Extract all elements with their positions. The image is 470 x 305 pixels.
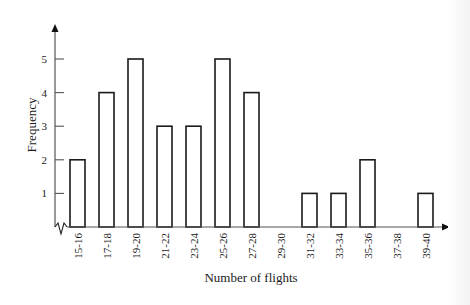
x-tick-label: 27-28 [246, 233, 258, 259]
x-tick-label: 33-34 [333, 233, 345, 259]
y-tick-label: 1 [42, 187, 48, 199]
x-tick-label: 25-26 [217, 233, 229, 259]
y-tick-label: 5 [42, 53, 48, 65]
y-axis-label: Frequency [24, 97, 39, 152]
bar-25-26 [215, 59, 230, 227]
bar-39-40 [418, 193, 433, 227]
x-tick-label: 21-22 [159, 233, 171, 259]
x-tick-label: 17-18 [101, 233, 113, 259]
histogram-chart: 12345 15-1617-1819-2021-2223-2425-2627-2… [0, 0, 470, 305]
bar-31-32 [302, 193, 317, 227]
bar-27-28 [244, 93, 259, 227]
x-tick-label: 39-40 [420, 233, 432, 259]
y-tick-label: 3 [42, 120, 48, 132]
y-ticks-group: 12345 [42, 53, 65, 199]
x-tick-label: 19-20 [130, 233, 142, 259]
chart-canvas: 12345 15-1617-1819-2021-2223-2425-2627-2… [0, 0, 470, 305]
y-tick-label: 2 [42, 154, 48, 166]
bars-group [70, 59, 433, 227]
x-tick-label: 31-32 [304, 233, 316, 259]
x-tick-label: 35-36 [362, 233, 374, 259]
x-tick-label: 29-30 [275, 233, 287, 259]
y-axis-arrow-icon [52, 24, 59, 32]
bar-17-18 [99, 93, 114, 227]
bar-35-36 [360, 160, 375, 227]
y-tick-label: 4 [42, 87, 48, 99]
bar-23-24 [186, 126, 201, 227]
x-tick-label: 23-24 [188, 233, 200, 259]
x-tick-label: 37-38 [391, 233, 403, 259]
x-axis-label: Number of flights [204, 270, 297, 285]
axis-break-icon [55, 223, 67, 234]
bar-15-16 [70, 160, 85, 227]
bar-33-34 [331, 193, 346, 227]
x-tick-label: 15-16 [72, 233, 84, 259]
x-ticks-group: 15-1617-1819-2021-2223-2425-2627-2829-30… [72, 233, 432, 259]
bar-21-22 [157, 126, 172, 227]
bar-19-20 [128, 59, 143, 227]
page-edge-shadow [448, 0, 470, 305]
